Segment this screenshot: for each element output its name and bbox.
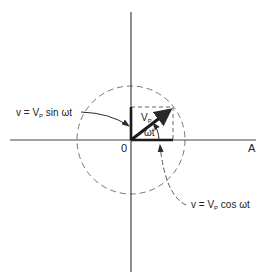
angle-label: ωt	[144, 127, 155, 138]
axis-label-a: A	[248, 142, 256, 154]
cosine-leader	[160, 145, 186, 205]
phasor-diagram: 0 A VP ωt v = VP sin ωt v = VP cos ωt	[0, 0, 272, 279]
sine-leader	[81, 112, 129, 126]
sine-annotation: v = VP sin ωt	[16, 107, 72, 119]
origin-label: 0	[121, 142, 127, 154]
phasor-label: VP	[141, 112, 152, 124]
cosine-annotation: v = VP cos ωt	[191, 199, 250, 211]
